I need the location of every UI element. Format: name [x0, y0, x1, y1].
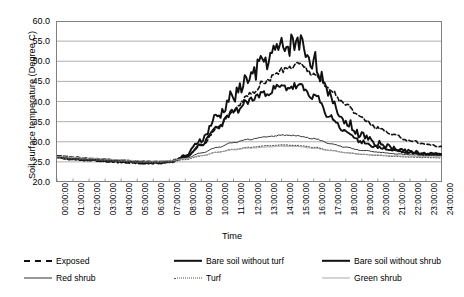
x-axis-tick-label: 19:00:00 — [365, 183, 377, 229]
x-axis-tick-label: 10:00:00 — [220, 183, 232, 229]
x-axis-tick-labels: 00:00:0001:00:0002:00:0003:00:0004:00:00… — [56, 183, 441, 229]
y-axis-tick-label: 55.0 — [8, 36, 50, 46]
x-axis-tick-label: 05:00:00 — [140, 183, 152, 229]
x-axis-tick-label: 15:00:00 — [301, 183, 313, 229]
legend-swatch-icon — [174, 257, 202, 265]
x-axis-tick-label: 03:00:00 — [108, 183, 120, 229]
x-axis-tick-label: 08:00:00 — [188, 183, 200, 229]
x-axis-tick-label: 01:00:00 — [76, 183, 88, 229]
legend-swatch-icon — [322, 274, 350, 282]
y-axis-tick-label: 25.0 — [8, 157, 50, 167]
x-axis-tick-label: 14:00:00 — [285, 183, 297, 229]
legend-swatch-icon — [322, 257, 350, 265]
legend-item[interactable]: Turf — [174, 273, 322, 283]
legend-item[interactable]: Red shrub — [24, 273, 174, 283]
legend-swatch-icon — [24, 274, 52, 282]
y-axis-tick-label: 30.0 — [8, 137, 50, 147]
y-axis-tick-label: 60.0 — [8, 16, 50, 26]
legend-item[interactable]: Green shrub — [322, 273, 448, 283]
x-axis-tick-label: 16:00:00 — [317, 183, 329, 229]
x-axis-tick-label: 04:00:00 — [124, 183, 136, 229]
x-axis-tick-label: 18:00:00 — [349, 183, 361, 229]
x-axis-tick-label: 00:00:00 — [60, 183, 72, 229]
legend-item[interactable]: Bare soil without turf — [174, 256, 322, 266]
legend-item-label: Exposed — [56, 256, 89, 266]
plot-area — [56, 21, 441, 182]
legend-item-label: Green shrub — [354, 273, 402, 283]
legend-item-label: Turf — [206, 273, 221, 283]
x-axis-tick-label: 24:00:00 — [445, 183, 457, 229]
x-axis-tick-label: 09:00:00 — [204, 183, 216, 229]
legend-swatch-icon — [24, 257, 52, 265]
soil-temperature-line-chart: Soil surface temperature (Degree C) 60.0… — [0, 0, 464, 297]
x-axis-tick-label: 11:00:00 — [236, 183, 248, 229]
y-axis-tick-label: 20.0 — [8, 177, 50, 187]
y-axis-tick-label: 35.0 — [8, 117, 50, 127]
x-axis-tick-label: 21:00:00 — [397, 183, 409, 229]
x-axis-tick-label: 06:00:00 — [156, 183, 168, 229]
plot-svg — [57, 21, 442, 182]
chart-legend: ExposedBare soil without turfBare soil w… — [24, 252, 448, 286]
y-axis-tick-label: 45.0 — [8, 76, 50, 86]
legend-item[interactable]: Bare soil without shrub — [322, 256, 448, 266]
x-axis-tick-label: 13:00:00 — [269, 183, 281, 229]
x-axis-tick-label: 22:00:00 — [413, 183, 425, 229]
legend-item-label: Bare soil without shrub — [354, 256, 441, 266]
y-axis-tick-label: 40.0 — [8, 97, 50, 107]
x-axis-tick-label: 20:00:00 — [381, 183, 393, 229]
x-axis-tick-label: 02:00:00 — [92, 183, 104, 229]
legend-item[interactable]: Exposed — [24, 256, 174, 266]
x-axis-tick-label: 07:00:00 — [172, 183, 184, 229]
x-axis-title: Time — [0, 231, 464, 241]
legend-item-label: Bare soil without turf — [206, 256, 284, 266]
legend-swatch-icon — [174, 274, 202, 282]
series-line — [57, 83, 442, 164]
x-axis-tick-label: 12:00:00 — [253, 183, 265, 229]
x-axis-tick-label: 23:00:00 — [429, 183, 441, 229]
y-axis-tick-label: 50.0 — [8, 56, 50, 66]
legend-item-label: Red shrub — [56, 273, 96, 283]
x-axis-tick-label: 17:00:00 — [333, 183, 345, 229]
